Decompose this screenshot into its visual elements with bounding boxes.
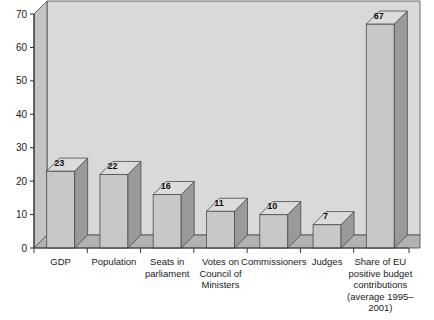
- bar-value-label-5: 7: [323, 211, 328, 221]
- x-category-label-0: GDP: [50, 256, 71, 267]
- bar-value-label-2: 16: [161, 181, 171, 191]
- x-category-line-2-1: parliament: [145, 268, 190, 279]
- bar-chart: 0102030405060702322161110767GDPPopulatio…: [0, 0, 434, 320]
- x-category-line-6-1: positive budget: [348, 268, 412, 279]
- x-category-label-1: Population: [91, 256, 136, 267]
- x-category-line-3-0: Votes on: [202, 256, 239, 267]
- y-tick-label-50: 50: [16, 75, 28, 86]
- x-category-line-6-2: contributions: [353, 279, 407, 290]
- bar-front-5: [313, 225, 341, 248]
- bar-value-label-3: 11: [214, 198, 224, 208]
- chart-left-wall: [34, 1, 47, 248]
- y-tick-label-60: 60: [16, 42, 28, 53]
- x-category-label-4: Commissioners: [241, 256, 307, 267]
- x-category-line-0-0: GDP: [50, 256, 71, 267]
- x-category-line-1-0: Population: [91, 256, 136, 267]
- bar-front-4: [260, 215, 288, 248]
- x-category-label-2: Seats inparliament: [145, 256, 190, 279]
- bar-group-0: 23: [47, 158, 88, 248]
- x-category-line-2-0: Seats in: [150, 256, 184, 267]
- bar-group-4: 10: [260, 201, 301, 248]
- x-category-line-6-3: (average 1995–: [347, 291, 414, 302]
- x-category-line-3-2: Ministers: [201, 279, 239, 290]
- bar-group-3: 11: [207, 198, 248, 248]
- bar-side-0: [75, 158, 88, 248]
- bar-value-label-1: 22: [107, 161, 117, 171]
- bar-front-3: [207, 211, 235, 248]
- chart-canvas: 0102030405060702322161110767GDPPopulatio…: [0, 0, 434, 320]
- x-category-line-4-0: Commissioners: [241, 256, 307, 267]
- y-tick-label-70: 70: [16, 9, 28, 20]
- bar-front-1: [100, 174, 128, 248]
- x-category-line-6-0: Share of EU: [354, 256, 406, 267]
- bar-group-2: 16: [153, 181, 194, 248]
- bar-front-6: [366, 24, 394, 248]
- bar-side-1: [128, 161, 141, 248]
- y-tick-label-30: 30: [16, 142, 28, 153]
- bar-value-label-0: 23: [54, 158, 64, 168]
- y-tick-label-0: 0: [21, 243, 27, 254]
- x-category-label-5: Judges: [312, 256, 343, 267]
- bar-group-1: 22: [100, 161, 141, 248]
- bar-value-label-6: 67: [374, 11, 384, 21]
- y-tick-label-20: 20: [16, 176, 28, 187]
- x-category-line-3-1: Council of: [199, 268, 242, 279]
- bar-front-0: [47, 171, 75, 248]
- bar-front-2: [153, 195, 181, 248]
- bar-group-6: 67: [366, 11, 407, 248]
- bar-side-6: [394, 11, 407, 248]
- x-category-label-6: Share of EUpositive budgetcontributions(…: [347, 256, 414, 313]
- y-tick-label-10: 10: [16, 209, 28, 220]
- x-category-label-3: Votes onCouncil ofMinisters: [199, 256, 242, 290]
- bar-value-label-4: 10: [267, 201, 277, 211]
- x-category-line-5-0: Judges: [312, 256, 343, 267]
- y-tick-label-40: 40: [16, 109, 28, 120]
- x-category-line-6-4: 2001): [368, 302, 392, 313]
